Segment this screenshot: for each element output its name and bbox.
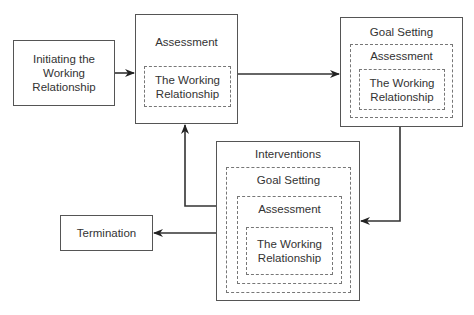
node-title: Assessment [136,35,237,49]
layer-title: Assessment [238,202,341,216]
arrow-interventions-to-assessment [185,125,216,206]
node-interventions: Interventions Goal Setting Assessment Th… [216,141,360,301]
node-initiating-working-relationship: Initiating the Working Relationship [13,40,115,106]
layer-label: The Working Relationship [247,237,332,265]
node-assessment: Assessment The Working Relationship [135,14,238,124]
node-label: Termination [61,226,152,240]
node-title: Goal Setting [341,25,462,39]
layer-title: Goal Setting [227,173,350,187]
node-label: Initiating the Working Relationship [14,52,114,94]
node-termination: Termination [60,215,153,251]
layer-title: Assessment [351,49,452,63]
layer-working-relationship: The Working Relationship [144,66,231,107]
layer-label: The Working Relationship [145,73,230,101]
node-title: Interventions [217,147,359,161]
layer-working-relationship: The Working Relationship [359,69,445,110]
layer-goal-setting: Goal Setting Assessment The Working Rela… [226,167,351,293]
layer-working-relationship: The Working Relationship [246,227,333,275]
node-goal-setting: Goal Setting Assessment The Working Rela… [340,17,463,127]
layer-assessment: Assessment The Working Relationship [237,196,342,284]
arrow-goal-setting-to-interventions [361,127,400,221]
layer-assessment: Assessment The Working Relationship [350,44,453,118]
layer-label: The Working Relationship [360,76,444,104]
